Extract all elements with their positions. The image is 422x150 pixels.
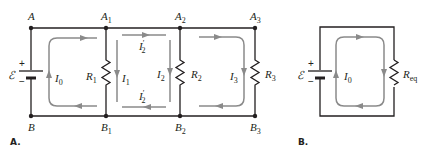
panel-label-a: A. xyxy=(10,137,21,147)
label-req: Req xyxy=(402,68,417,83)
panel-label-b: B. xyxy=(298,137,308,147)
arrow-left-icon xyxy=(215,103,223,109)
arrow-right-icon xyxy=(356,34,364,40)
resistor-req xyxy=(390,60,398,85)
resistor-r2 xyxy=(176,28,184,116)
label-node-b: B xyxy=(28,121,35,133)
label-node-b3: B3 xyxy=(250,121,261,136)
node-a3 xyxy=(253,26,257,30)
arrow-left-icon xyxy=(355,103,363,109)
arrow-down-icon xyxy=(241,68,247,76)
label-i2-prime-bottom: I′2 xyxy=(138,89,145,105)
label-i3: I3 xyxy=(229,70,238,85)
label-i1: I1 xyxy=(121,72,130,87)
top-wire xyxy=(320,27,394,70)
arrow-up-icon xyxy=(333,70,339,78)
label-r1: R1 xyxy=(85,70,97,85)
circuit-a: A A1 A2 A3 B B1 B2 B3 ℰ + − I0 R1 I1 I′2… xyxy=(8,10,276,147)
node-b xyxy=(29,114,33,118)
arrow-up-icon xyxy=(46,70,52,78)
label-emf: ℰ xyxy=(297,69,305,81)
label-r3: R3 xyxy=(264,68,276,83)
arrow-right-icon xyxy=(142,32,150,38)
label-plus: + xyxy=(19,58,25,69)
label-plus: + xyxy=(308,58,314,69)
arrow-down-icon xyxy=(381,69,387,77)
resistor-r1 xyxy=(102,28,110,116)
label-emf: ℰ xyxy=(8,69,16,81)
label-minus: − xyxy=(19,76,25,87)
node-a2 xyxy=(178,26,182,30)
node-b1 xyxy=(104,114,108,118)
label-i2-prime-top: I′2 xyxy=(138,39,145,55)
node-b3 xyxy=(253,114,257,118)
node-a1 xyxy=(104,26,108,30)
label-node-a3: A3 xyxy=(249,10,261,25)
arrow-down-icon xyxy=(114,70,120,78)
label-node-a1: A1 xyxy=(100,10,112,25)
label-i2: I2 xyxy=(156,68,165,83)
arrow-right-icon xyxy=(214,34,222,40)
bottom-wire xyxy=(320,79,394,116)
label-r2: R2 xyxy=(190,68,202,83)
label-minus: − xyxy=(308,76,314,87)
resistor-r3 xyxy=(251,28,259,116)
label-node-a: A xyxy=(27,10,35,22)
label-i0: I0 xyxy=(343,70,352,85)
node-b2 xyxy=(178,114,182,118)
arrow-left-icon xyxy=(74,103,82,109)
circuit-b: ℰ + − I0 Req B. xyxy=(297,27,417,147)
label-node-b1: B1 xyxy=(101,121,112,136)
label-node-b2: B2 xyxy=(175,121,186,136)
arrow-right-icon xyxy=(80,35,88,41)
arrow-down-icon xyxy=(167,68,173,76)
label-node-a2: A2 xyxy=(174,10,186,25)
current-loop-i3 xyxy=(199,37,244,106)
label-i0: I0 xyxy=(54,72,63,87)
circuit-diagram: A A1 A2 A3 B B1 B2 B3 ℰ + − I0 R1 I1 I′2… xyxy=(0,0,422,150)
node-a xyxy=(29,26,33,30)
